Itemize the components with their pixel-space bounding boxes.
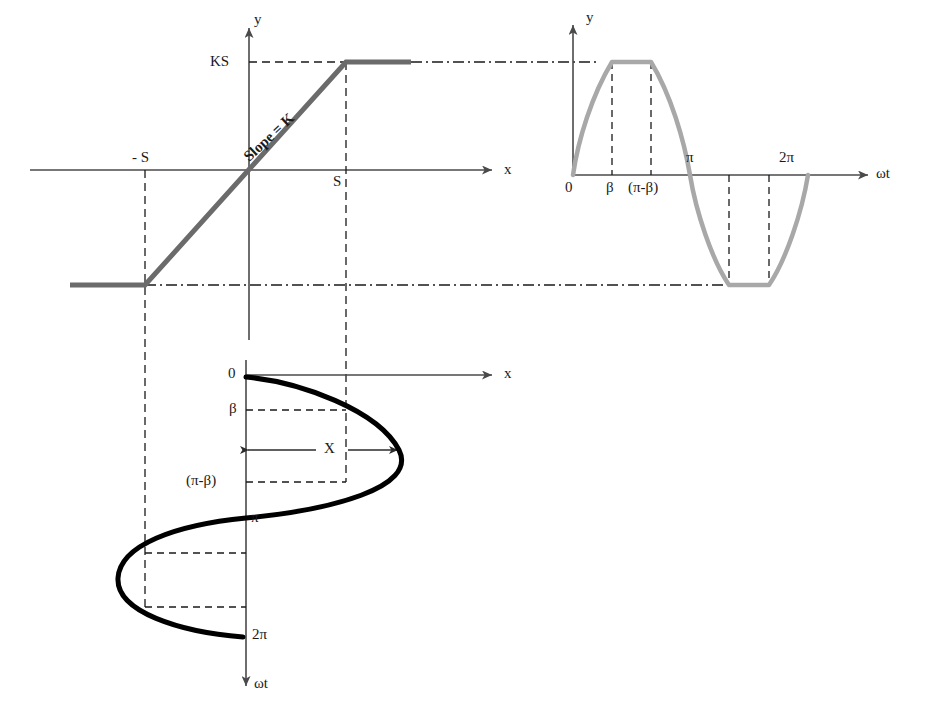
input-pi-minus-beta-tick-label: (π-β) (186, 473, 216, 488)
output-time-axis-label: ωt (876, 166, 890, 181)
input-x-axis-label: x (504, 366, 512, 381)
input-two-pi-tick-label: 2π (252, 627, 267, 642)
input-amplitude-label: X (324, 441, 335, 456)
output-pi-tick-label: π (686, 150, 694, 165)
output-beta-tick-label: β (606, 180, 614, 195)
output-y-axis-label: y (586, 10, 594, 25)
input-sine-curve (118, 377, 402, 637)
output-waveform-plot (573, 25, 868, 285)
saturation-neg-s-tick-label: - S (132, 150, 149, 165)
saturation-characteristic-plot (30, 28, 730, 607)
input-time-axis-label: ωt (254, 676, 268, 691)
diagram-canvas (0, 0, 925, 724)
saturation-ks-tick-label: KS (210, 54, 229, 69)
input-waveform-plot (118, 360, 492, 686)
figure-root: y x KS - S S Slope = K y ωt 0 β (π-β) π … (0, 0, 925, 724)
output-pi-minus-beta-tick-label: (π-β) (628, 180, 658, 195)
saturation-curve (70, 62, 411, 285)
output-clipped-sine-curve (573, 62, 808, 285)
input-pi-tick-label: π (251, 510, 259, 525)
input-beta-tick-label: β (229, 401, 237, 416)
output-two-pi-tick-label: 2π (779, 150, 794, 165)
saturation-y-axis-label: y (254, 12, 262, 27)
saturation-x-axis-label: x (504, 162, 512, 177)
saturation-s-tick-label: S (333, 174, 341, 189)
output-zero-tick-label: 0 (565, 180, 573, 195)
input-zero-tick-label: 0 (228, 366, 236, 381)
